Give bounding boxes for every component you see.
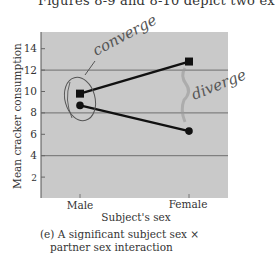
circle-marker (185, 127, 193, 135)
y-tick-label: 10 (24, 85, 37, 97)
circle-marker (76, 102, 84, 110)
y-tick-label: 14 (24, 42, 38, 54)
y-tick-label: 2 (31, 173, 37, 183)
y-tick-label: 4 (30, 149, 37, 161)
caption-line-1: (e) A significant subject sex × (40, 228, 199, 240)
x-tick-label-male: Male (67, 199, 94, 211)
y-tick-label: 8 (30, 106, 37, 118)
square-marker (76, 90, 84, 98)
square-marker (185, 58, 193, 66)
caption-line-2: partner sex interaction (40, 241, 199, 254)
plot-area (41, 32, 228, 198)
x-tick-label-female: Female (169, 198, 208, 210)
y-tick-label: 6 (30, 128, 37, 140)
figure-caption: (e) A significant subject sex × partner … (40, 228, 199, 254)
y-axis-label: Mean cracker consumption (11, 43, 23, 189)
y-tick-label: 12 (24, 64, 37, 76)
x-axis-label: Subject's sex (101, 211, 170, 223)
